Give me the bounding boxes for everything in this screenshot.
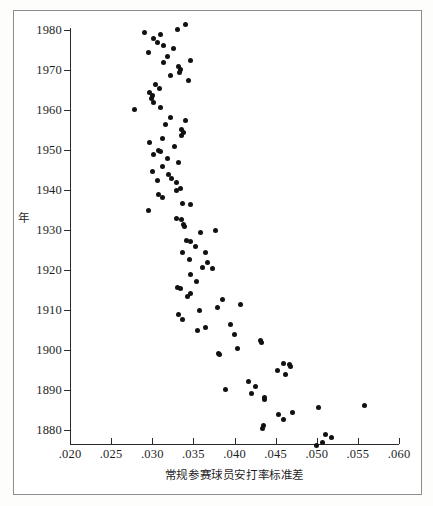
data-point — [158, 149, 163, 154]
y-axis-title: 年 — [18, 209, 29, 225]
data-point — [157, 86, 162, 91]
x-tick-label-text: .060 — [379, 447, 419, 461]
data-point — [171, 46, 176, 51]
data-point — [168, 73, 173, 78]
y-tick-label-text: 1920 — [24, 264, 62, 276]
data-point — [176, 160, 181, 165]
y-tick-mark — [64, 390, 70, 391]
data-point — [203, 250, 208, 255]
data-point — [160, 195, 165, 200]
y-tick-label-text: 1980 — [24, 24, 62, 36]
data-point — [188, 272, 193, 277]
data-point — [165, 54, 170, 59]
x-tick-label-text: .040 — [215, 447, 255, 461]
y-axis-line — [70, 28, 71, 445]
x-tick-mark — [152, 438, 153, 444]
y-tick-label-text: 1950 — [24, 144, 62, 156]
data-point — [185, 294, 190, 299]
data-point — [155, 40, 160, 45]
data-point — [215, 305, 220, 310]
y-tick-label: 1950 — [20, 144, 62, 156]
data-point — [217, 352, 222, 357]
y-tick-label-text: 1880 — [24, 424, 62, 436]
data-point — [155, 178, 160, 183]
x-tick-label: .055 — [338, 447, 378, 461]
data-point — [168, 115, 173, 120]
x-tick-mark — [235, 438, 236, 444]
x-tick-label: .045 — [256, 447, 296, 461]
y-tick-label: 1890 — [20, 384, 62, 396]
y-tick-mark — [64, 70, 70, 71]
y-tick-mark — [64, 270, 70, 271]
data-point — [281, 361, 286, 366]
data-point — [142, 30, 147, 35]
data-point — [180, 250, 185, 255]
scatter-plot: 1980197019601950194019301920191019001890… — [0, 0, 433, 506]
data-point — [178, 286, 183, 291]
x-tick-label: .035 — [173, 447, 213, 461]
y-tick-label-text: 1910 — [24, 304, 62, 316]
data-point — [281, 417, 286, 422]
y-tick-label-text: 1930 — [24, 224, 62, 236]
data-point — [174, 188, 179, 193]
x-tick-label: .020 — [50, 447, 90, 461]
data-point — [220, 297, 225, 302]
data-point — [246, 379, 251, 384]
data-point — [187, 257, 192, 262]
x-tick-label: .040 — [215, 447, 255, 461]
data-point — [179, 133, 184, 138]
data-point — [175, 27, 180, 32]
data-point — [259, 340, 264, 345]
y-tick-mark — [64, 190, 70, 191]
x-tick-mark — [358, 438, 359, 444]
data-point — [132, 107, 137, 112]
y-tick-mark — [64, 310, 70, 311]
data-point — [160, 164, 165, 169]
x-tick-mark — [276, 438, 277, 444]
x-axis-line — [70, 444, 399, 445]
data-point — [213, 228, 218, 233]
data-point — [188, 239, 193, 244]
data-point — [197, 308, 202, 313]
data-point — [174, 180, 179, 185]
data-point — [249, 391, 254, 396]
y-tick-label-text: 1940 — [24, 184, 62, 196]
data-point — [314, 443, 319, 448]
data-point — [151, 152, 156, 157]
y-tick-label: 1930 — [20, 224, 62, 236]
x-tick-label-text: .050 — [297, 447, 337, 461]
y-tick-mark — [64, 430, 70, 431]
data-point — [188, 58, 193, 63]
data-point — [223, 387, 228, 392]
data-point — [172, 144, 177, 149]
y-tick-label: 1960 — [20, 104, 62, 116]
data-point — [262, 397, 267, 402]
data-point — [182, 224, 187, 229]
y-tick-label: 1920 — [20, 264, 62, 276]
data-point — [276, 412, 281, 417]
data-point — [188, 202, 193, 207]
y-tick-label: 1900 — [20, 344, 62, 356]
data-point — [260, 426, 265, 431]
data-point — [228, 322, 233, 327]
data-point — [320, 440, 325, 445]
y-tick-mark — [64, 230, 70, 231]
data-point — [146, 50, 151, 55]
data-point — [161, 43, 166, 48]
data-point — [169, 176, 174, 181]
data-point — [186, 78, 191, 83]
data-point — [183, 22, 188, 27]
data-point — [362, 403, 367, 408]
x-tick-label-text: .025 — [91, 447, 131, 461]
data-point — [232, 332, 237, 337]
data-point — [203, 325, 208, 330]
y-tick-label: 1880 — [20, 424, 62, 436]
data-point — [177, 70, 182, 75]
y-tick-label: 1910 — [20, 304, 62, 316]
data-point — [275, 368, 280, 373]
x-tick-label-text: .035 — [173, 447, 213, 461]
data-point — [180, 317, 185, 322]
data-point — [238, 302, 243, 307]
data-point — [205, 260, 210, 265]
data-point — [160, 136, 165, 141]
